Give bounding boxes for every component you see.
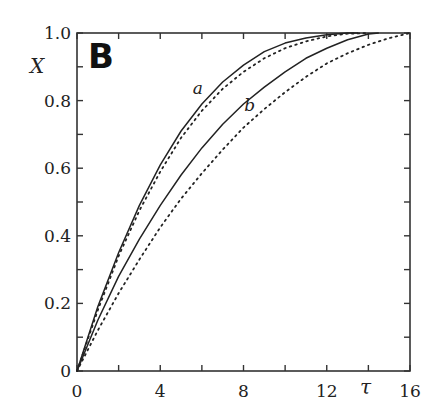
x-tick-label: 0 bbox=[72, 381, 83, 401]
x-tick-label: 8 bbox=[238, 381, 249, 401]
curve-label-b: b bbox=[244, 95, 255, 115]
y-tick-label: 0.4 bbox=[44, 226, 71, 246]
y-tick-label: 0.6 bbox=[44, 158, 71, 178]
plot-frame bbox=[77, 33, 410, 371]
x-tick-label: 12 bbox=[316, 381, 338, 401]
conversion-chart: 048121600.20.40.60.81.0 BXτab bbox=[0, 0, 444, 420]
dotted-curve bbox=[77, 33, 410, 371]
y-tick-label: 0.2 bbox=[44, 293, 71, 313]
curve-label-a: a bbox=[193, 78, 203, 98]
curves bbox=[77, 33, 410, 371]
x-tick-label: 16 bbox=[399, 381, 421, 401]
x-tick-label: 4 bbox=[155, 381, 166, 401]
plot-border bbox=[77, 33, 410, 371]
solid-curve bbox=[77, 33, 358, 371]
y-axis-label: X bbox=[28, 54, 45, 78]
panel-label: B bbox=[88, 36, 114, 76]
x-axis-label: τ bbox=[360, 375, 372, 399]
labels: BXτab bbox=[28, 36, 372, 399]
dotted-curve bbox=[77, 33, 368, 371]
y-tick-label: 0.8 bbox=[44, 91, 71, 111]
y-tick-label: 0 bbox=[60, 361, 71, 381]
y-tick-label: 1.0 bbox=[44, 23, 71, 43]
axis-ticks: 048121600.20.40.60.81.0 bbox=[44, 23, 421, 401]
solid-curve bbox=[77, 33, 379, 371]
